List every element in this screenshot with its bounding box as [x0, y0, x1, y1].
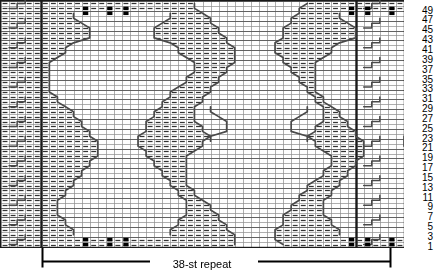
repeat-label: 38-st repeat	[0, 258, 404, 271]
knitting-chart-figure: 4947454341393735333129272523211917151311…	[0, 0, 434, 280]
chart-grid-canvas	[0, 0, 404, 248]
row-number-axis: 4947454341393735333129272523211917151311…	[406, 0, 434, 248]
chart-grid	[0, 0, 404, 248]
